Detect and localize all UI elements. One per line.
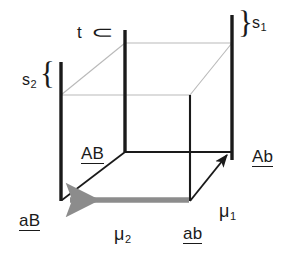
brace-s2-icon: {: [40, 58, 55, 89]
label-mu2: μ2: [114, 225, 131, 245]
arrow-mu1: [190, 155, 227, 201]
cube-diagram-svg: [0, 0, 300, 256]
label-s1: s1: [252, 15, 267, 33]
label-genotype-aB: aB: [19, 212, 40, 231]
label-mu2-sub: 2: [124, 233, 131, 245]
edge-back-left-diag: [61, 43, 125, 95]
label-s2-sub: 2: [30, 78, 37, 90]
label-mu1-base: μ: [219, 201, 229, 221]
label-s2-base: s: [22, 71, 30, 88]
back-edges-group: [61, 43, 232, 95]
label-genotype-AB: AB: [81, 145, 104, 164]
label-s1-base: s: [252, 14, 260, 31]
figure-root: t ⊂ } s1 s2 { AB Ab aB ab μ1 μ2: [0, 0, 300, 256]
label-mu1-sub: 1: [229, 210, 236, 222]
brace-s1-icon: }: [238, 7, 253, 38]
edge-back-right-diag: [190, 43, 232, 95]
brace-t-icon: ⊂: [91, 24, 114, 41]
label-mu2-base: μ: [114, 224, 124, 244]
label-s2: s2: [22, 72, 37, 90]
label-genotype-ab: ab: [183, 225, 202, 244]
label-s1-sub: 1: [260, 21, 267, 33]
label-mu1: μ1: [219, 202, 236, 222]
label-genotype-Ab: Ab: [252, 148, 273, 167]
label-t: t: [77, 24, 82, 41]
